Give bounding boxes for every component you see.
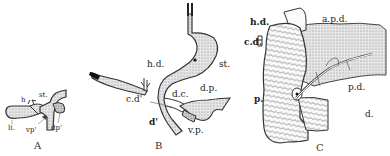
label-c-common-duct: c.d.: [244, 38, 262, 47]
label-b-common-duct: c.d': [126, 95, 142, 104]
label-a-hepatic: h: [21, 96, 26, 105]
label-a-ventral-pancreas: vp': [26, 126, 36, 135]
label-c-pancreatic-duct: p.d.: [348, 83, 365, 92]
label-a-liver: li.: [8, 124, 15, 133]
caption-b: B: [155, 140, 162, 151]
label-c-papilla: p.: [254, 95, 263, 104]
label-c-accessory-pancreatic-duct: a.p.d.: [322, 15, 347, 24]
label-c-hepatic-duct: h.d.: [250, 18, 269, 27]
caption-a: A: [34, 140, 41, 151]
label-b-stomach: st.: [219, 60, 230, 69]
label-b-hepatic-duct: h.d.: [147, 60, 164, 69]
label-a-dorsal-pancreas: dp': [51, 124, 62, 133]
label-a-stomach: st.: [39, 91, 48, 100]
label-b-ventral-pancreas: v.p.: [188, 126, 204, 135]
figure-c: [256, 8, 386, 143]
label-b-dorsal-pancreas: d.p.: [200, 84, 217, 93]
caption-c: C: [316, 142, 324, 153]
label-b-duodenum: d': [149, 118, 158, 127]
label-c-duodenum: d.: [365, 110, 374, 119]
label-b-ductus-choledochus: d.c.: [172, 90, 189, 99]
figure-b: [89, 3, 230, 135]
